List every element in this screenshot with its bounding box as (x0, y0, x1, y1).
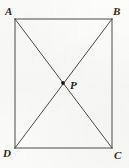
point-P-marker (61, 81, 65, 85)
vertex-label-A: A (5, 6, 12, 17)
vertex-label-C: C (114, 150, 121, 161)
geometry-figure: A B C D P (0, 0, 129, 168)
geometry-canvas (0, 0, 129, 168)
vertex-label-B: B (113, 6, 120, 17)
vertex-label-D: D (3, 148, 11, 159)
point-label-P: P (70, 80, 77, 91)
